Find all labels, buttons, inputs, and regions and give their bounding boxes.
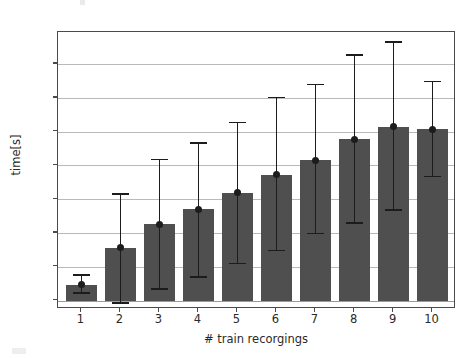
scan-artifact-bottom	[12, 348, 26, 354]
x-tick-label: 5	[216, 314, 256, 326]
mean-marker	[234, 189, 241, 196]
x-axis-label: # train recorgings	[57, 332, 455, 346]
error-bar-cap-upper	[112, 193, 128, 195]
error-bar-cap-upper	[151, 159, 167, 161]
error-bar-cap-upper	[346, 54, 362, 56]
error-bar-cap-lower	[151, 288, 167, 290]
mean-marker	[273, 171, 280, 178]
error-bar-cap-lower	[190, 276, 206, 278]
figure-canvas: time[s] 0100200300400500600700 123456789…	[0, 0, 474, 358]
mean-marker	[351, 136, 358, 143]
x-tick-label: 9	[373, 314, 413, 326]
mean-marker	[78, 281, 85, 288]
mean-marker	[312, 157, 319, 164]
mean-marker	[117, 244, 124, 251]
x-tick-label: 2	[99, 314, 139, 326]
mean-marker	[390, 123, 397, 130]
error-bar-cap-upper	[73, 274, 89, 276]
error-bar-cap-upper	[424, 81, 440, 83]
error-bar-cap-lower	[73, 292, 89, 294]
error-bar-cap-upper	[307, 84, 323, 86]
error-bar-cap-upper	[385, 41, 401, 43]
error-bar-cap-lower	[307, 233, 323, 235]
error-bar-cap-upper	[268, 97, 284, 99]
x-tick-label: 1	[60, 314, 100, 326]
plot-area	[57, 31, 455, 308]
x-tick-label: 3	[138, 314, 178, 326]
x-tick-label: 7	[295, 314, 335, 326]
error-bar-cap-lower	[424, 176, 440, 178]
error-bar-cap-lower	[112, 302, 128, 304]
mean-marker	[429, 126, 436, 133]
mean-marker	[195, 206, 202, 213]
x-tick-label: 4	[177, 314, 217, 326]
mean-marker	[156, 221, 163, 228]
error-bar-cap-upper	[190, 142, 206, 144]
error-bar-cap-upper	[229, 122, 245, 124]
error-bar-cap-lower	[346, 222, 362, 224]
error-bar-cap-lower	[385, 209, 401, 211]
x-tick-label: 8	[334, 314, 374, 326]
scan-artifact-top	[80, 0, 85, 5]
error-bar-cap-lower	[229, 263, 245, 265]
y-axis-label: time[s]	[9, 135, 23, 176]
x-tick-label: 10	[412, 314, 452, 326]
error-bar-series	[58, 32, 454, 307]
error-bar-cap-lower	[268, 250, 284, 252]
x-tick-label: 6	[256, 314, 296, 326]
